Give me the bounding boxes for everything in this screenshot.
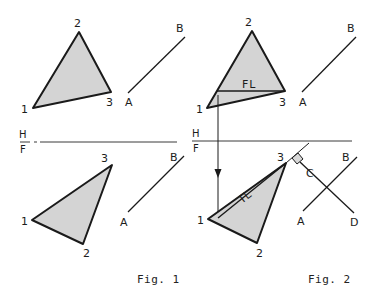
fig1-top-line-ab — [128, 37, 185, 93]
fig1-top-label-b: B — [176, 22, 184, 35]
fig2-top-vertex-2-label: 2 — [245, 16, 252, 29]
fig1-top-vertex-3-label: 3 — [106, 96, 113, 109]
fig1-top-label-a: A — [125, 96, 133, 109]
fig1-caption: Fig. 1 — [137, 273, 180, 286]
fig2-top-triangle — [207, 31, 285, 108]
fig1-top-vertex-2-label: 2 — [74, 17, 81, 30]
fig2-label-c: C — [306, 167, 314, 180]
fig2-top-line-ab — [302, 37, 356, 92]
fig2-caption: Fig. 2 — [308, 273, 351, 286]
right-angle-icon — [292, 153, 303, 164]
arrow-down-icon — [215, 169, 222, 178]
fig2-top-label-b: B — [347, 22, 355, 35]
fig2-fl-label: FL — [242, 78, 256, 91]
fig2-label-d: D — [350, 216, 358, 229]
fig1-top-vertex-1-label: 1 — [21, 103, 28, 116]
fig1-front-line-ab — [128, 156, 184, 212]
figure-2: FL 2 1 3 B A H F TL 3 1 2 C D — [192, 16, 358, 286]
fig2-top-vertex-1-label: 1 — [196, 103, 203, 116]
fig1-front-label-b: B — [170, 151, 178, 164]
figure-1: 2 1 3 B A H F 3 1 2 B A Fig. 1 — [19, 17, 185, 286]
fig2-top-vertex-3-label: 3 — [279, 96, 286, 109]
fig2-fold-label-f: F — [193, 143, 199, 154]
fig2-front-label-b: B — [342, 151, 350, 164]
fig1-front-vertex-1-label: 1 — [21, 215, 28, 228]
fig1-front-vertex-3-label: 3 — [101, 152, 108, 165]
fig2-front-vertex-2-label: 2 — [256, 247, 263, 260]
fig1-fold-label-f: F — [20, 144, 26, 155]
fig2-front-label-a: A — [297, 215, 305, 228]
fig1-front-triangle — [32, 165, 112, 244]
fig2-front-vertex-3-label: 3 — [277, 151, 284, 164]
fig2-fold-label-h: H — [192, 128, 200, 139]
fig1-front-vertex-2-label: 2 — [83, 247, 90, 260]
fig2-top-label-a: A — [299, 96, 307, 109]
fig1-top-triangle — [33, 32, 111, 108]
fig1-fold-label-h: H — [19, 129, 27, 140]
diagram-canvas: 2 1 3 B A H F 3 1 2 B A Fig. 1 — [0, 0, 372, 298]
fig2-front-vertex-1-label: 1 — [197, 214, 204, 227]
fig2-front-line-ab — [303, 157, 357, 211]
fig1-front-label-a: A — [120, 216, 128, 229]
